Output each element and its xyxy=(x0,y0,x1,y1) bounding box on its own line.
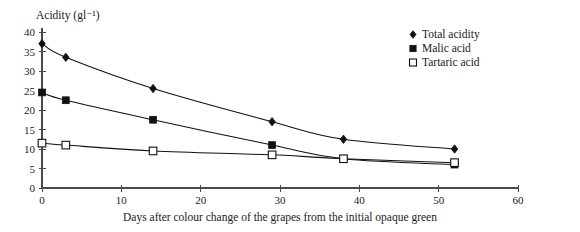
x-axis: 0102030405060 xyxy=(39,185,524,207)
data-point-marker xyxy=(39,40,46,48)
acidity-line-chart: 0510152025303540 0102030405060 Total aci… xyxy=(0,0,580,232)
data-point-marker xyxy=(410,59,417,66)
data-point-marker xyxy=(451,159,459,167)
x-axis-tick-label: 20 xyxy=(195,194,207,206)
x-axis-title: Days after colour change of the grapes f… xyxy=(123,211,437,224)
y-axis-tick-label: 10 xyxy=(24,143,36,155)
data-point-marker xyxy=(269,118,276,126)
data-point-marker xyxy=(451,145,458,153)
chart-legend: Total acidityMalic acidTartaric acid xyxy=(410,28,480,68)
x-axis-tick-label: 50 xyxy=(433,194,445,206)
x-axis-tick-label: 60 xyxy=(513,194,525,206)
y-axis-title: Acidity (gl⁻¹) xyxy=(36,9,100,22)
data-point-marker xyxy=(150,116,157,123)
y-axis-tick-label: 0 xyxy=(30,182,36,194)
y-axis-tick-label: 20 xyxy=(24,104,36,116)
data-point-marker xyxy=(62,141,70,149)
legend-item-label: Total acidity xyxy=(422,28,480,41)
legend-item-label: Tartaric acid xyxy=(422,56,480,68)
legend-item-label: Malic acid xyxy=(422,42,471,54)
y-axis: 0510152025303540 xyxy=(24,26,46,194)
data-series-group xyxy=(38,40,458,169)
x-axis-tick-label: 0 xyxy=(39,194,45,206)
data-point-marker xyxy=(149,147,157,155)
data-point-marker xyxy=(150,84,157,92)
y-axis-tick-label: 40 xyxy=(24,26,36,38)
data-series xyxy=(39,89,458,168)
x-axis-tick-label: 10 xyxy=(116,194,128,206)
data-point-marker xyxy=(39,89,46,96)
legend-item: Total acidity xyxy=(410,28,480,41)
data-series xyxy=(39,40,458,154)
y-axis-tick-label: 15 xyxy=(24,124,36,136)
x-axis-tick-label: 30 xyxy=(275,194,287,206)
data-point-marker xyxy=(63,53,70,61)
y-axis-tick-label: 30 xyxy=(24,65,36,77)
data-point-marker xyxy=(269,142,276,149)
series-line xyxy=(42,143,455,163)
legend-item: Malic acid xyxy=(410,42,471,54)
series-line xyxy=(42,44,455,149)
data-point-marker xyxy=(38,139,46,147)
y-axis-tick-label: 35 xyxy=(24,46,36,58)
data-point-marker xyxy=(62,97,69,104)
chart-canvas: 0510152025303540 0102030405060 Total aci… xyxy=(0,0,580,232)
data-point-marker xyxy=(268,151,276,159)
x-axis-tick-label: 40 xyxy=(354,194,366,206)
data-point-marker xyxy=(340,135,347,143)
y-axis-tick-label: 5 xyxy=(30,163,36,175)
data-point-marker xyxy=(410,31,416,39)
legend-item: Tartaric acid xyxy=(410,56,480,68)
data-point-marker xyxy=(340,155,348,163)
data-point-marker xyxy=(410,45,416,51)
y-axis-tick-label: 25 xyxy=(24,85,36,97)
